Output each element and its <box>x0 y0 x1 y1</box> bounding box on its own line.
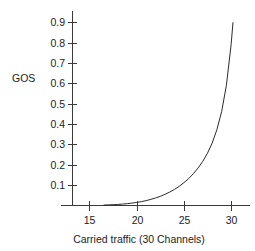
y-tick-label: 0.6 <box>50 77 65 89</box>
y-axis-tick-labels: 0.10.20.30.40.50.60.70.80.9 <box>50 16 65 191</box>
x-axis-tick-labels: 15202530 <box>84 214 238 226</box>
y-tick-label: 0.9 <box>50 16 65 28</box>
x-tick-label: 15 <box>84 214 96 226</box>
x-tick-label: 20 <box>132 214 144 226</box>
y-tick-label: 0.4 <box>50 118 65 130</box>
gos-vs-carried-traffic-chart: 0.10.20.30.40.50.60.70.80.9 15202530 GOS… <box>0 0 255 251</box>
x-axis-title: Carried traffic (30 Channels) <box>73 233 205 245</box>
y-tick-label: 0.7 <box>50 57 65 69</box>
x-tick-label: 25 <box>179 214 191 226</box>
y-tick-label: 0.8 <box>50 37 65 49</box>
y-tick-label: 0.5 <box>50 98 65 110</box>
y-tick-label: 0.2 <box>50 159 65 171</box>
y-tick-label: 0.3 <box>50 138 65 150</box>
chart-figure: 0.10.20.30.40.50.60.70.80.9 15202530 GOS… <box>0 0 255 251</box>
gos-curve <box>104 22 233 205</box>
y-axis-title: GOS <box>12 72 35 84</box>
x-tick-label: 30 <box>226 214 238 226</box>
y-tick-label: 0.1 <box>50 179 65 191</box>
